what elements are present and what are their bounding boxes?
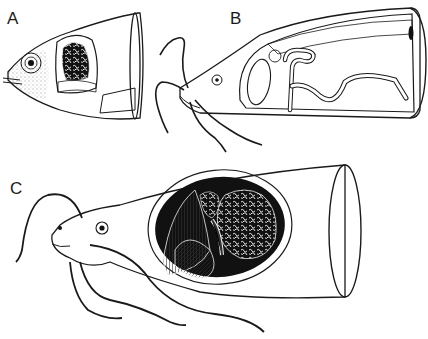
figure-illustration: [0, 0, 428, 339]
panel-b-barbeled-head: [156, 8, 426, 152]
panel-c-catfish-head: [16, 163, 361, 332]
panel-a-fish-head: [3, 13, 143, 119]
eye-icon: [28, 60, 34, 66]
